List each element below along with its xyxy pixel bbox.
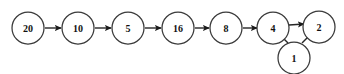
node-5[interactable]: 5 xyxy=(112,12,144,44)
node-20[interactable]: 20 xyxy=(12,12,44,44)
node-4[interactable]: 4 xyxy=(257,12,289,44)
node-20-circle[interactable] xyxy=(12,12,44,44)
node-2[interactable]: 2 xyxy=(303,11,335,43)
graph-canvas: 20 10 5 16 8 4 xyxy=(0,0,344,74)
node-8-circle[interactable] xyxy=(210,12,242,44)
node-4-circle[interactable] xyxy=(257,12,289,44)
node-10[interactable]: 10 xyxy=(62,12,94,44)
node-1[interactable]: 1 xyxy=(278,42,310,74)
edge-4-to-2 xyxy=(289,24,304,25)
node-16[interactable]: 16 xyxy=(162,12,194,44)
node-1-circle[interactable] xyxy=(278,42,310,74)
node-16-circle[interactable] xyxy=(162,12,194,44)
node-10-circle[interactable] xyxy=(62,12,94,44)
node-8[interactable]: 8 xyxy=(210,12,242,44)
node-2-circle[interactable] xyxy=(303,11,335,43)
diagram-container: 20 10 5 16 8 4 xyxy=(0,0,344,74)
node-5-circle[interactable] xyxy=(112,12,144,44)
